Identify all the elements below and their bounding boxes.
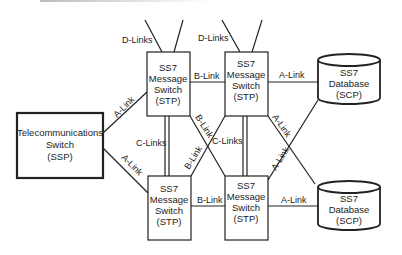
ssp-label-line1: Telecommunications xyxy=(17,127,103,138)
a-link-label-scp-top: A-Link xyxy=(279,70,305,80)
ssp-label-line2: Switch xyxy=(46,139,74,150)
stp-br-line2: Message xyxy=(227,191,266,202)
stp-tl-line1: SS7 xyxy=(159,62,177,73)
ss7-network-diagram: Telecommunications Switch (SSP) SS7 Mess… xyxy=(0,0,402,255)
stp-br-line1: SS7 xyxy=(237,180,255,191)
stp-tr-line4: (STP) xyxy=(234,91,259,102)
scp-top-line2: Database xyxy=(329,78,370,89)
scp-bottom-line1: SS7 xyxy=(340,193,358,204)
a-link-line xyxy=(268,116,315,184)
stp-br-line3: Switch xyxy=(232,202,260,213)
scp-top-line1: SS7 xyxy=(340,67,358,78)
stp-bl-line1: SS7 xyxy=(160,183,178,194)
d-links-label-left: D-Links xyxy=(122,35,153,45)
stp-tr-line3: Switch xyxy=(232,80,260,91)
d-link-line xyxy=(252,20,262,52)
d-link-line xyxy=(174,20,183,52)
stp-tr-line1: SS7 xyxy=(237,58,255,69)
scp-top-line3: (SCP) xyxy=(336,89,362,100)
stp-br-line4: (STP) xyxy=(234,213,259,224)
c-links-label-right: C-Links xyxy=(212,136,243,146)
d-links-label-right: D-Links xyxy=(198,33,229,43)
a-link-label-ssp-top: A-Link xyxy=(111,94,136,119)
stp-bl-line2: Message xyxy=(150,194,189,205)
b-link-label-top: B-Link xyxy=(194,71,220,81)
scp-bottom-line2: Database xyxy=(329,204,370,215)
a-link-label-diag2: A-Link xyxy=(269,145,291,172)
stp-tl-line4: (STP) xyxy=(156,95,181,106)
stp-tr-line2: Message xyxy=(227,69,266,80)
scp-bottom-line3: (SCP) xyxy=(336,215,362,226)
c-links-label-left: C-Links xyxy=(136,138,167,148)
stp-bl-line4: (STP) xyxy=(157,216,182,227)
stp-tl-line3: Switch xyxy=(154,84,182,95)
ssp-label-line3: (SSP) xyxy=(47,151,72,162)
b-link-label-bottom: B-Link xyxy=(197,195,223,205)
stp-tl-line2: Message xyxy=(149,73,188,84)
stp-bl-line3: Switch xyxy=(155,205,183,216)
a-link-label-ssp-bottom: A-Link xyxy=(120,152,145,177)
a-link-label-scp-bottom: A-Link xyxy=(281,195,307,205)
